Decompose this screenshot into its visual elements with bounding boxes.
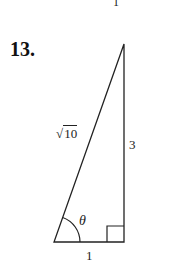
triangle-outline: [54, 44, 124, 242]
right-triangle-diagram: [0, 0, 190, 263]
angle-theta-label: θ: [79, 214, 86, 228]
hypotenuse-label: √10: [56, 127, 77, 140]
adjacent-side-label: 1: [86, 249, 93, 262]
opposite-side-label: 3: [129, 138, 136, 151]
right-angle-marker: [107, 226, 124, 242]
hypotenuse-value: 10: [63, 125, 77, 141]
angle-arc: [63, 218, 80, 243]
